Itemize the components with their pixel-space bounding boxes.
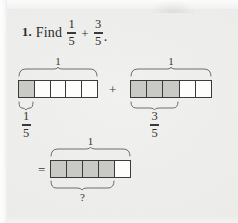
scan-smudge (150, 0, 196, 13)
bar-cell (180, 81, 196, 97)
bar-cell (163, 81, 179, 97)
problem-verb: Find (36, 25, 62, 41)
bar-cell (115, 161, 130, 177)
problem-statement: 1. Find 1 5 + 3 5 . (22, 18, 108, 47)
fraction-denominator: 5 (69, 34, 75, 48)
bar-cell (82, 81, 97, 97)
fraction-bar-sum (50, 160, 131, 178)
part-fraction-one-fifth: 1 5 (22, 110, 31, 139)
fraction-numerator: 3 (151, 110, 157, 124)
bar-cell (51, 81, 67, 97)
bar-cell (99, 161, 115, 177)
fraction-denominator: 5 (151, 126, 157, 140)
part-label-first-addend: 1 5 (18, 110, 34, 139)
bar-cell (19, 81, 35, 97)
textbook-page: 1. Find 1 5 + 3 5 . 1 (0, 0, 238, 223)
scan-bottom-band (0, 215, 238, 223)
bar-cell (67, 161, 83, 177)
brace-top-second-addend (130, 67, 212, 77)
fraction-bar-first-addend (18, 80, 98, 98)
bar-model-sum: 1 ? (50, 160, 131, 178)
bar-model-first-addend: 1 1 5 (18, 80, 98, 98)
part-fraction-three-fifths: 3 5 (150, 110, 159, 139)
scan-left-margin (0, 0, 7, 223)
part-label-second-addend: 3 5 (130, 110, 179, 139)
bar-cell (51, 161, 67, 177)
statement-period: . (104, 29, 108, 45)
brace-top-first-addend (18, 67, 98, 77)
bar-cell (83, 161, 99, 177)
statement-fraction-one-fifth: 1 5 (67, 18, 76, 47)
bar-cell (131, 81, 147, 97)
statement-plus-sign: + (81, 26, 89, 42)
bar-model-second-addend: 1 3 5 (130, 80, 212, 98)
fraction-denominator: 5 (95, 34, 101, 48)
bar-cell (196, 81, 211, 97)
part-label-sum: ? (50, 191, 115, 203)
whole-label-sum: 1 (50, 135, 131, 147)
statement-fraction-three-fifths: 3 5 (94, 18, 103, 47)
bar-cell (66, 81, 82, 97)
bar-cell (35, 81, 51, 97)
fraction-denominator: 5 (23, 126, 29, 140)
fraction-numerator: 1 (69, 18, 75, 32)
brace-top-sum (50, 147, 131, 157)
fraction-numerator: 3 (95, 18, 101, 32)
equals-sign: = (38, 162, 45, 178)
scan-top-band (0, 0, 238, 9)
bar-cell (147, 81, 163, 97)
fraction-numerator: 1 (23, 110, 29, 124)
fraction-bar-second-addend (130, 80, 212, 98)
problem-number: 1. (22, 25, 32, 40)
plus-sign-between-models: + (109, 82, 116, 98)
whole-label-first-addend: 1 (18, 55, 98, 67)
whole-label-second-addend: 1 (130, 55, 212, 67)
brace-bottom-sum (50, 180, 115, 191)
